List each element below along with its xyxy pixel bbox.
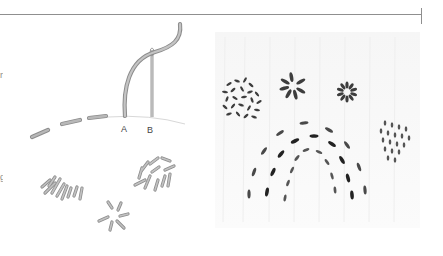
top-rule-end-tick — [421, 8, 422, 24]
fabric-line — [108, 116, 185, 124]
embroidery-photo — [215, 32, 420, 228]
running-stitch-arc — [32, 116, 106, 137]
star-stitch — [99, 202, 128, 230]
needle-icon — [150, 48, 154, 117]
label-point-a: A — [121, 124, 127, 134]
label-point-b: B — [147, 125, 153, 135]
fabric-background — [215, 32, 420, 228]
stitch-illustration: A B — [0, 0, 215, 256]
